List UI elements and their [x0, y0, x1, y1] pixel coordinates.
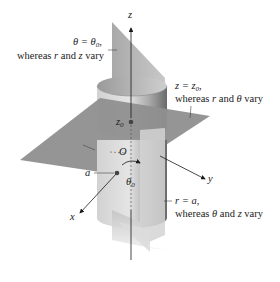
- z-axis-label: z: [127, 9, 132, 20]
- a-point: [115, 171, 120, 176]
- a-label: a: [85, 167, 90, 178]
- z0-point: [129, 120, 134, 125]
- origin-label: O: [119, 146, 127, 157]
- cylindrical-coordinates-diagram: z y x O z0 a θ0 θ = θ0, whereas r and z …: [0, 0, 280, 282]
- theta-plane-annotation-line1: θ = θ0,: [73, 36, 102, 49]
- cylinder-annotation-line1: r = a,: [175, 195, 199, 206]
- x-axis-label: x: [69, 211, 75, 222]
- theta-plane-annotation-line2: whereas r and z vary: [17, 50, 105, 61]
- y-axis-label: y: [207, 173, 213, 184]
- theta-plane-front: [140, 128, 165, 246]
- z-plane-annotation-line2: whereas r and θ vary: [175, 93, 264, 104]
- cylinder-annotation-line2: whereas θ and z vary: [175, 208, 264, 219]
- z-plane-annotation-line1: z = z0,: [174, 80, 202, 93]
